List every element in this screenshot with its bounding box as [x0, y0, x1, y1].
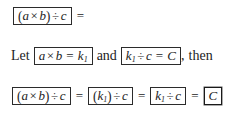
variable-C: C [167, 49, 176, 62]
right-paren: ) [107, 88, 111, 103]
and-word: and [97, 48, 117, 64]
variable-c: c [175, 89, 181, 102]
left-paren: ( [17, 88, 21, 103]
subscript-1: 1 [161, 96, 165, 104]
variable-a: a [21, 89, 28, 102]
right-paren: ) [46, 8, 50, 23]
equation-line-1: (a×b)÷c = [13, 7, 89, 25]
boxed-expression-a-times-b-div-c-step1: (a×b)÷c [12, 87, 71, 105]
math-derivation-figure: (a×b)÷c = Let a×b=k1 and k1÷c=C , then (… [0, 0, 247, 126]
divide-operator: ÷ [112, 89, 122, 102]
boxed-definition-C: k1÷c=C [121, 47, 181, 65]
divide-operator: ÷ [50, 89, 60, 102]
equation-line-2: Let a×b=k1 and k1÷c=C , then [11, 47, 213, 65]
equals-sign: = [152, 49, 167, 62]
then-word: then [189, 48, 213, 64]
variable-c: c [60, 89, 66, 102]
equals-sign: = [62, 49, 77, 62]
variable-b: b [56, 49, 63, 62]
divide-operator: ÷ [136, 49, 146, 62]
let-word: Let [11, 48, 30, 64]
comma: , [181, 48, 185, 64]
equals-sign-step2-step3: = [133, 88, 150, 104]
subscript-1: 1 [132, 56, 136, 64]
times-operator: × [29, 9, 39, 22]
equals-sign-line1: = [72, 8, 89, 24]
boxed-definition-k1: a×b=k1 [34, 47, 93, 65]
variable-b: b [39, 9, 46, 22]
divide-operator: ÷ [165, 89, 175, 102]
variable-a: a [39, 49, 46, 62]
variable-c: c [122, 89, 128, 102]
boxed-result-C: C [204, 87, 223, 105]
left-paren: ( [93, 88, 97, 103]
times-operator: × [45, 49, 55, 62]
equals-sign-step1-step2: = [71, 88, 88, 104]
boxed-expression-a-times-b-div-c: (a×b)÷c [13, 7, 72, 25]
boxed-expression-k1-paren-div-c-step2: (k1)÷c [88, 87, 133, 105]
right-paren: ) [45, 88, 49, 103]
times-operator: × [28, 89, 38, 102]
divide-operator: ÷ [51, 9, 61, 22]
variable-C: C [209, 89, 218, 102]
equals-sign-step3-result: = [186, 88, 203, 104]
variable-a: a [22, 9, 29, 22]
variable-b: b [38, 89, 45, 102]
equation-line-3: (a×b)÷c = (k1)÷c = k1÷c = C [12, 87, 222, 105]
left-paren: ( [18, 8, 22, 23]
variable-c: c [61, 9, 67, 22]
boxed-expression-k1-div-c-step3: k1÷c [150, 87, 186, 105]
subscript-1: 1 [84, 56, 88, 64]
